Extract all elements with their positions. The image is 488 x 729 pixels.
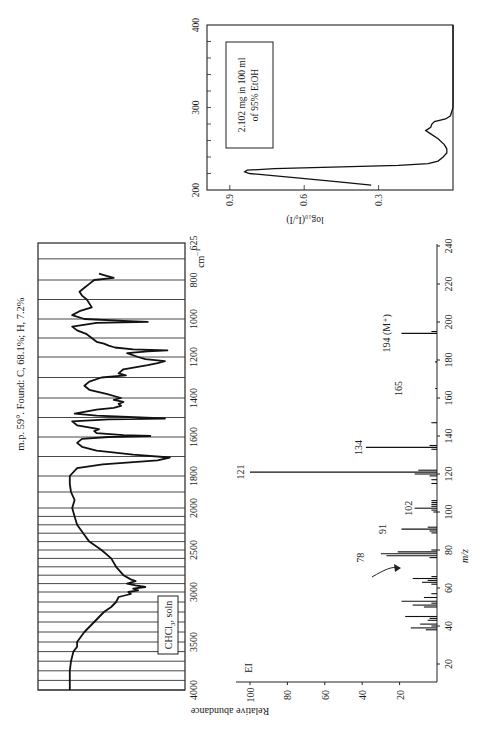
svg-text:100: 100 (443, 505, 454, 520)
ms-78-arrow (372, 567, 398, 577)
svg-text:200: 200 (191, 183, 201, 198)
svg-text:140: 140 (443, 429, 454, 444)
svg-text:1800: 1800 (188, 466, 199, 486)
svg-text:91: 91 (377, 524, 388, 534)
svg-text:40: 40 (357, 690, 368, 700)
svg-text:120: 120 (443, 467, 454, 482)
svg-text:20: 20 (395, 690, 406, 700)
svg-text:160: 160 (443, 391, 454, 406)
svg-text:220: 220 (443, 277, 454, 292)
svg-text:80: 80 (282, 690, 293, 700)
ir-curve (70, 274, 170, 690)
uv-ylabel: log₁₀(I₀/I) (286, 214, 323, 225)
svg-text:cm−1: cm−1 (194, 248, 206, 268)
svg-text:80: 80 (443, 545, 454, 555)
svg-text:102: 102 (403, 501, 414, 516)
svg-text:1600: 1600 (188, 427, 199, 447)
ms-xlabel: m/z (459, 549, 470, 563)
svg-text:121: 121 (235, 465, 246, 480)
mass-spectrum: 20406080100120140160180200220240 2040608… (190, 239, 470, 718)
ms-mz-ticks: 20406080100120140160180200220240 (437, 239, 454, 670)
svg-text:m/z: m/z (459, 549, 470, 563)
svg-text:of 95% EtOH: of 95% EtOH (250, 69, 260, 121)
svg-text:EI: EI (243, 663, 254, 672)
ms-mode-label: EI (243, 663, 254, 672)
header-note-text: m.p. 59°. Found: C, 68.1%; H, 7.2% (15, 297, 26, 450)
svg-text:1000: 1000 (188, 309, 199, 329)
svg-text:log₁₀(I₀/I): log₁₀(I₀/I) (286, 214, 323, 225)
svg-text:180: 180 (443, 353, 454, 368)
svg-text:78: 78 (355, 553, 366, 563)
ms-abundance-ticks: 20406080100 (245, 682, 406, 703)
ir-spectrum: 4000350030002500200018001600140012001000… (38, 236, 206, 701)
uv-spectrum: 2003004000.30.60.9 2.102 mg in 100 ml of… (191, 18, 453, 225)
svg-text:134: 134 (353, 440, 364, 455)
ir-tick-labels: 4000350030002500200018001600140012001000… (188, 236, 199, 701)
svg-text:3000: 3000 (188, 582, 199, 602)
ir-unit-label: cm−1 (194, 248, 206, 268)
svg-text:0.6: 0.6 (299, 194, 309, 206)
arrow-head-icon (394, 564, 401, 572)
svg-text:240: 240 (443, 239, 454, 254)
svg-text:2.102 mg in 100 ml: 2.102 mg in 100 ml (237, 57, 247, 132)
uv-curve (245, 25, 453, 185)
svg-text:0.9: 0.9 (225, 194, 235, 206)
svg-text:300: 300 (191, 100, 201, 115)
uv-ticks: 2003004000.30.60.9 (191, 18, 384, 206)
svg-text:165: 165 (393, 381, 404, 396)
ms-peak-labels: 7891102121134165194 (M⁺) (235, 314, 414, 563)
svg-text:194 (M⁺): 194 (M⁺) (381, 314, 393, 352)
svg-text:60: 60 (443, 583, 454, 593)
svg-text:400: 400 (191, 18, 201, 33)
svg-text:100: 100 (245, 688, 256, 703)
svg-text:0.3: 0.3 (374, 194, 384, 206)
svg-text:3500: 3500 (188, 632, 199, 652)
uv-note-box: 2.102 mg in 100 ml of 95% EtOH (226, 42, 273, 148)
svg-text:1200: 1200 (188, 347, 199, 367)
header-note: m.p. 59°. Found: C, 68.1%; H, 7.2% (15, 297, 26, 450)
svg-text:60: 60 (320, 690, 331, 700)
svg-text:200: 200 (443, 315, 454, 330)
svg-text:2000: 2000 (188, 498, 199, 518)
svg-text:2500: 2500 (188, 540, 199, 560)
svg-text:800: 800 (188, 273, 199, 288)
svg-text:Relative abundance: Relative abundance (190, 706, 269, 717)
ms-peaks (250, 332, 437, 630)
ir-solvent-box: CHCl3, soln (158, 596, 178, 654)
ms-ylabel: Relative abundance (190, 706, 269, 717)
svg-text:1400: 1400 (188, 388, 199, 408)
svg-text:40: 40 (443, 621, 454, 631)
svg-text:4000: 4000 (188, 680, 199, 700)
spectra-page: m.p. 59°. Found: C, 68.1%; H, 7.2% 40003… (0, 0, 488, 729)
svg-text:20: 20 (443, 659, 454, 669)
